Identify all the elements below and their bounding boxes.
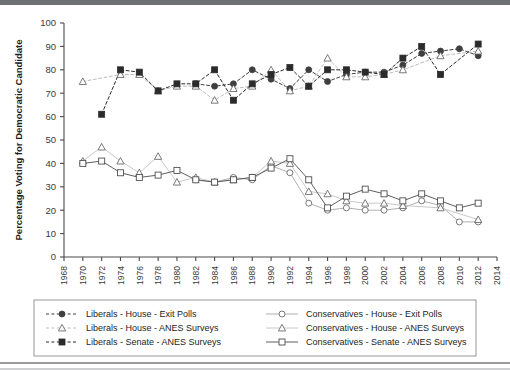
data-point	[249, 81, 255, 87]
x-tick-label: 2004	[398, 266, 408, 285]
x-tick-label: 1996	[323, 266, 333, 285]
legend-marker	[279, 339, 285, 345]
y-tick-label: 70	[45, 88, 56, 99]
legend-label: Conservatives - House - Exit Polls	[306, 309, 443, 319]
data-point	[155, 153, 162, 160]
data-point	[343, 193, 349, 199]
data-point	[456, 205, 462, 211]
legend-marker	[279, 311, 285, 317]
y-tick-label: 80	[45, 64, 56, 75]
x-tick-label: 1980	[172, 266, 182, 285]
legend-label: Liberals - House - Exit Polls	[86, 309, 197, 319]
x-tick-label: 1990	[266, 266, 276, 285]
y-tick-label: 60	[45, 111, 56, 122]
legend-marker	[59, 339, 65, 345]
data-point	[381, 207, 387, 213]
data-point	[475, 41, 481, 47]
data-point	[475, 200, 481, 206]
x-tick-label: 2014	[492, 266, 502, 285]
chart-legend: Liberals - House - Exit PollsLiberals - …	[34, 300, 476, 356]
x-tick-label: 1976	[135, 266, 145, 285]
data-point	[475, 47, 482, 54]
y-tick-label: 20	[45, 205, 56, 216]
x-tick-label: 1998	[342, 266, 352, 285]
data-point	[174, 81, 180, 87]
data-point	[80, 160, 86, 166]
data-point	[305, 188, 312, 195]
data-point	[98, 143, 105, 150]
data-point	[306, 67, 312, 73]
data-point	[287, 64, 293, 70]
data-point	[362, 186, 368, 192]
data-point	[287, 156, 293, 162]
data-point	[419, 50, 425, 56]
data-point	[343, 205, 349, 211]
y-tick-label: 50	[45, 134, 56, 145]
data-point	[287, 170, 293, 176]
legend-label: Liberals - House - ANES Surveys	[86, 323, 219, 333]
data-point	[117, 170, 123, 176]
data-point	[381, 71, 387, 77]
x-tick-label: 1992	[285, 266, 295, 285]
data-point	[267, 157, 274, 164]
x-tick-label: 2002	[379, 266, 389, 285]
data-point	[249, 67, 255, 73]
data-point	[211, 97, 218, 104]
data-point	[400, 55, 406, 61]
data-point	[419, 191, 425, 197]
data-point	[230, 177, 236, 183]
data-point	[117, 67, 123, 73]
series-line-con_house_exit	[196, 166, 478, 222]
x-tick-label: 1994	[304, 266, 314, 285]
data-point	[193, 81, 199, 87]
data-point	[456, 219, 462, 225]
data-point	[268, 165, 274, 171]
data-point	[99, 158, 105, 164]
x-tick-label: 1984	[210, 266, 220, 285]
data-point	[230, 97, 236, 103]
voting-trends-chart: 0102030405060708090100Percentage Voting …	[0, 0, 510, 370]
data-point	[325, 79, 331, 85]
series-markers-lib_house_exit	[193, 46, 481, 92]
data-point	[99, 111, 105, 117]
legend-marker	[59, 311, 65, 317]
chart-figure: 0102030405060708090100Percentage Voting …	[0, 0, 510, 370]
data-point	[324, 55, 331, 62]
data-point	[419, 198, 425, 204]
series-markers-layer	[79, 41, 482, 225]
data-point	[306, 200, 312, 206]
data-point	[174, 167, 180, 173]
data-point	[136, 174, 142, 180]
x-tick-label: 1978	[153, 266, 163, 285]
data-point	[362, 69, 368, 75]
y-axis-title: Percentage Voting for Democratic Candida…	[13, 40, 24, 241]
series-markers-con_house_anes	[79, 143, 482, 222]
y-tick-label: 100	[40, 17, 56, 28]
data-point	[268, 71, 274, 77]
data-point	[249, 174, 255, 180]
x-tick-label: 1968	[59, 266, 69, 285]
x-tick-label: 2010	[455, 266, 465, 285]
data-point	[155, 88, 161, 94]
x-tick-label: 2012	[473, 266, 483, 285]
legend-label: Conservatives - Senate - ANES Surveys	[306, 337, 467, 347]
x-tick-label: 1974	[116, 266, 126, 285]
x-tick-label: 1972	[97, 266, 107, 285]
series-markers-con_house_exit	[193, 163, 481, 225]
data-point	[325, 67, 331, 73]
y-tick-label: 0	[51, 251, 56, 262]
x-tick-label: 2008	[436, 266, 446, 285]
top-band	[0, 0, 510, 5]
data-point	[155, 172, 161, 178]
data-point	[212, 67, 218, 73]
data-point	[193, 177, 199, 183]
data-point	[400, 198, 406, 204]
x-tick-label: 1982	[191, 266, 201, 285]
legend-label: Conservatives - House - ANES Surveys	[306, 323, 465, 333]
data-point	[419, 43, 425, 49]
data-point	[212, 179, 218, 185]
data-point	[438, 198, 444, 204]
data-point	[117, 157, 124, 164]
x-tick-label: 2006	[417, 266, 427, 285]
x-tick-label: 1988	[247, 266, 257, 285]
